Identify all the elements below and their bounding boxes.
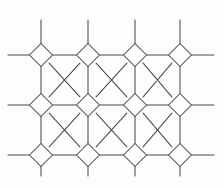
truncated-square-tiling-svg (0, 0, 224, 188)
edge-layer (8, 20, 214, 176)
tiling-figure (0, 0, 224, 188)
